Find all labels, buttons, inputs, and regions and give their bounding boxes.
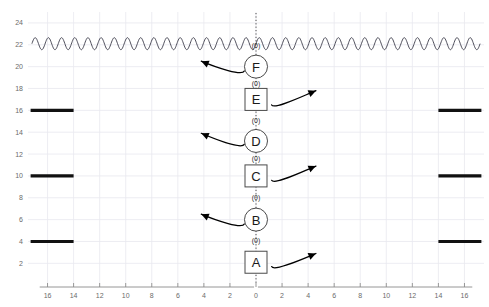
y-tick-label-24: 24 [15,19,23,26]
y-tick-label-4: 4 [19,238,23,245]
x-tick-label-left-4: 4 [202,292,206,299]
x-tick-label-left-10: 10 [122,292,130,299]
x-tick-label-right-14: 14 [435,292,443,299]
y-tick-label-8: 8 [19,194,23,201]
chain-node-e[interactable]: E [245,88,267,110]
y-tick-label-6: 6 [19,216,23,223]
bars-left-group [31,110,74,241]
y-tick-label-2: 2 [19,260,23,267]
x-tick-label-right-16: 16 [461,292,469,299]
x-tick-label-right-12: 12 [408,292,416,299]
energy-level-diagram: (0)(0)(0)(0)(0)(0) ABCDEF 24222018161412… [0,0,489,307]
chain-node-f[interactable]: F [245,55,268,78]
node-label-d: D [251,134,260,149]
x-tick-label-left-0: 0 [254,292,258,299]
x-tick-label-right-10: 10 [382,292,390,299]
x-axis-group: 1614121086420246810121416 [40,283,473,299]
x-tick-label-left-2: 2 [228,292,232,299]
node-label-b: B [252,213,261,228]
x-tick-label-left-16: 16 [44,292,52,299]
x-tick-label-left-8: 8 [150,292,154,299]
chain-connector-0: (0) [252,237,261,245]
x-tick-label-left-12: 12 [96,292,104,299]
chain-connector-5: (0) [252,42,261,50]
chain-node-c[interactable]: C [245,165,267,187]
x-tick-label-right-6: 6 [332,292,336,299]
chain-node-a[interactable]: A [245,251,267,273]
y-tick-label-18: 18 [15,85,23,92]
node-label-e: E [252,92,261,107]
bars-right-group [438,110,481,241]
y-tick-label-10: 10 [15,172,23,179]
y-tick-label-20: 20 [15,63,23,70]
y-tick-label-16: 16 [15,107,23,114]
x-tick-label-right-4: 4 [306,292,310,299]
node-label-c: C [251,169,260,184]
x-tick-label-right-2: 2 [280,292,284,299]
x-tick-label-left-14: 14 [70,292,78,299]
chain-connector-1: (0) [252,194,261,202]
x-tick-label-left-6: 6 [176,292,180,299]
chain-connector-4: (0) [252,80,261,88]
chain-connector-2: (0) [252,155,261,163]
node-label-f: F [252,60,260,75]
y-tick-label-22: 22 [15,41,23,48]
y-tick-label-12: 12 [15,151,23,158]
x-tick-label-right-8: 8 [358,292,362,299]
chain-connector-3: (0) [252,117,261,125]
y-tick-label-14: 14 [15,129,23,136]
y-axis-labels-group: 24222018161412108642 [15,19,23,266]
chain-node-d[interactable]: D [245,129,268,152]
chain-node-b[interactable]: B [245,208,268,231]
node-label-a: A [252,255,261,270]
